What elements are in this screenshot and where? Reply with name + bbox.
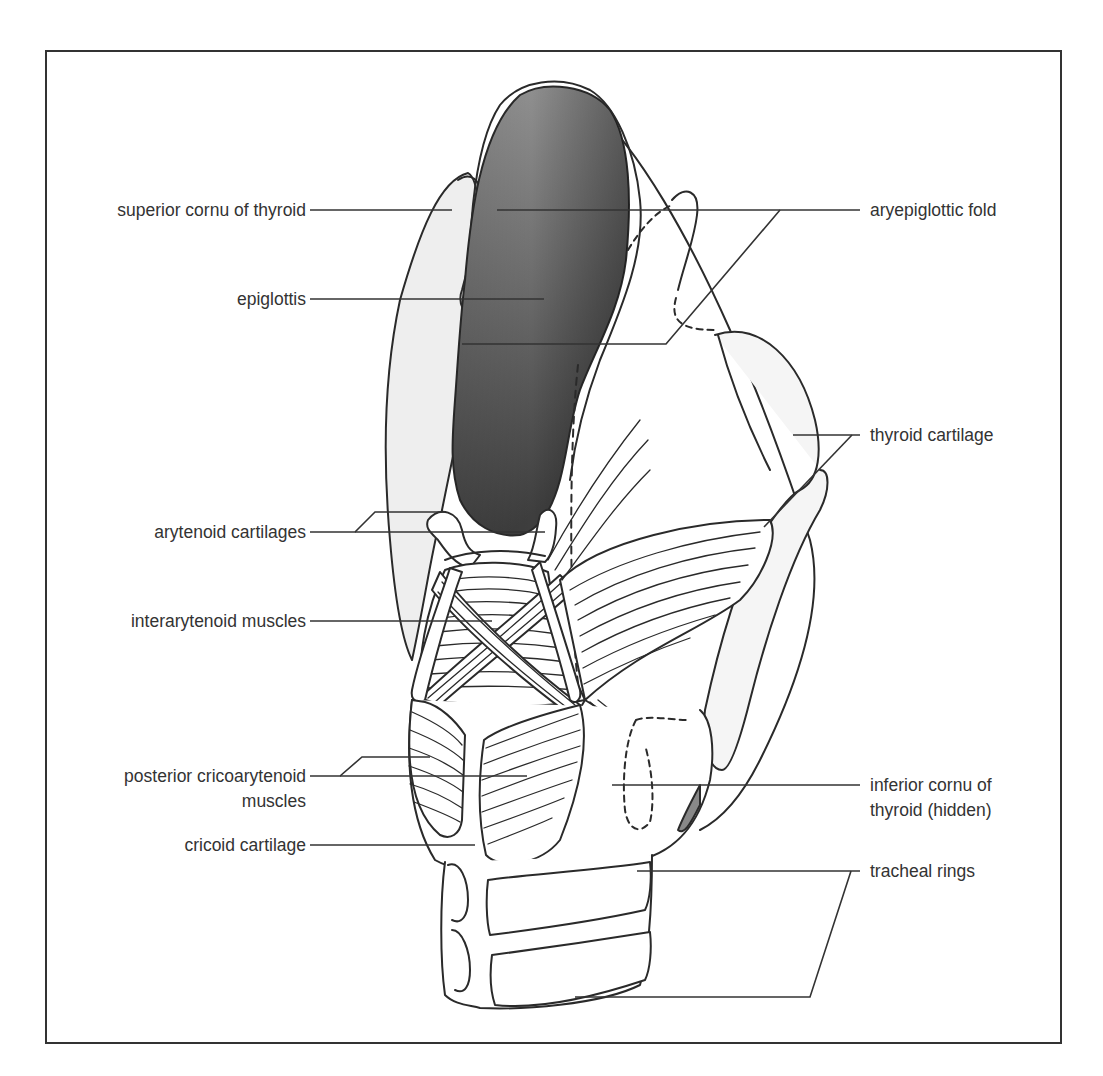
label-tracheal-rings: tracheal rings [870,861,975,882]
label-interarytenoid-muscles: interarytenoid muscles [131,611,306,632]
label-cricoid-cartilage: cricoid cartilage [184,835,306,856]
label-epiglottis: epiglottis [237,289,306,310]
right-superior-cornu [672,192,697,290]
label-line-1: posterior cricoarytenoid [124,766,306,787]
label-posterior-cricoarytenoid: posterior cricoarytenoid muscles [124,766,306,812]
label-thyroid-cartilage: thyroid cartilage [870,425,994,446]
label-arytenoid-cartilages: arytenoid cartilages [154,522,306,543]
label-superior-cornu: superior cornu of thyroid [117,200,306,221]
label-inferior-cornu: inferior cornu of thyroid (hidden) [870,775,992,821]
label-aryepiglottic-fold: aryepiglottic fold [870,200,996,221]
label-line-1: inferior cornu of [870,775,992,796]
label-line-2: thyroid (hidden) [870,800,992,821]
label-line-2: muscles [124,791,306,812]
